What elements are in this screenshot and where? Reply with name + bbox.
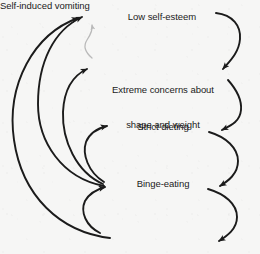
- edge-binge-eating-to-extreme-concerns: [63, 69, 103, 184]
- diagram-canvas: Low self-esteem Extreme concerns about s…: [0, 0, 260, 254]
- edge-self-induced-vomiting-to-binge-eating: [83, 187, 105, 233]
- node-extreme-concerns: Extreme concerns about shape and weight: [100, 61, 226, 153]
- edge-self-induced-vomiting-to-low-self-esteem: [13, 18, 110, 238]
- edge-extreme-concerns-to-low-self-esteem-faint: [85, 25, 92, 58]
- node-extreme-concerns-line1: Extreme concerns about: [100, 84, 226, 96]
- edge-binge-eating-to-low-self-esteem: [38, 17, 104, 186]
- node-low-self-esteem: Low self-esteem: [110, 11, 214, 23]
- node-binge-eating: Binge-eating: [120, 178, 206, 190]
- node-strict-dieting: Strict dieting: [120, 121, 206, 133]
- edge-binge-eating-to-self-induced-vomiting: [208, 189, 237, 241]
- node-self-induced-vomiting: Self-induced vomiting: [0, 0, 90, 12]
